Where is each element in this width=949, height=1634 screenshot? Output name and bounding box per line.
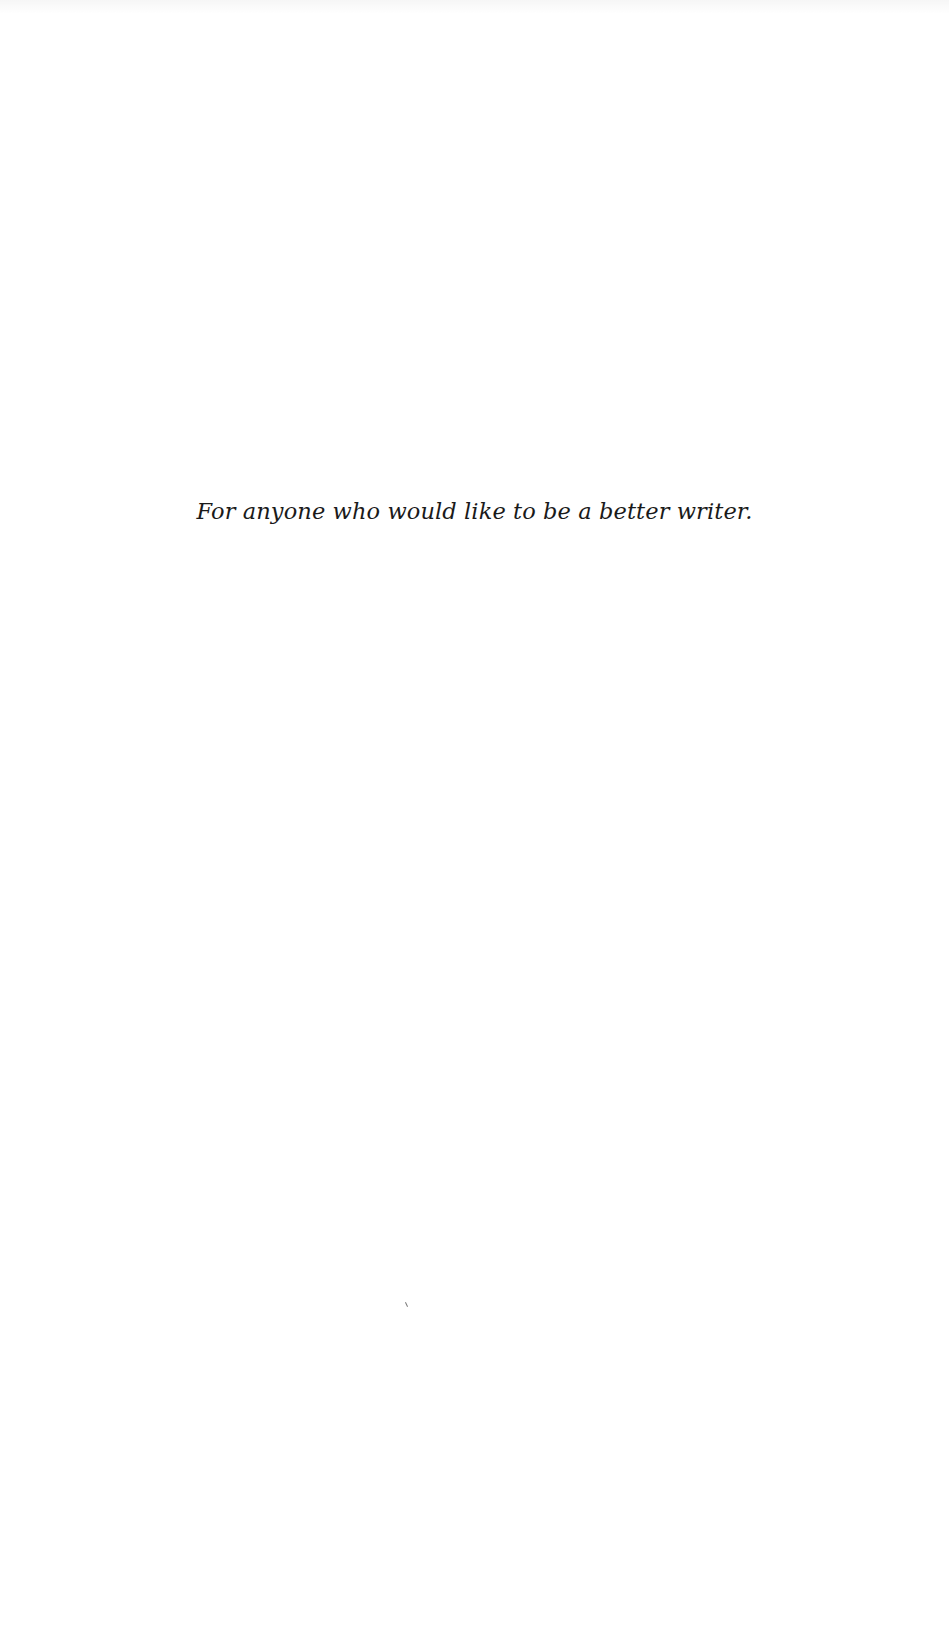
dedication-text: For anyone who would like to be a better… <box>0 496 949 526</box>
scan-speck <box>405 1302 408 1307</box>
scan-edge <box>0 0 949 14</box>
book-page: For anyone who would like to be a better… <box>0 0 949 1634</box>
